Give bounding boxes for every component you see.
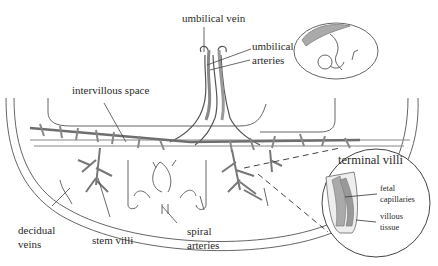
placenta-diagram [0,0,438,266]
label-stem-villi: stem villi [92,234,133,246]
label-fetal-capillaries-line2: capillaries [380,194,415,204]
label-spiral-arteries-line1: spiral [187,225,211,237]
chorionic-vessels [30,124,360,152]
label-umbilical-arteries-line2: arteries [252,54,284,66]
label-villous-tissue-line2: tissue [380,222,399,232]
label-fetal-capillaries-line1: fetal [380,183,395,193]
label-decidual-veins-line1: decidual [18,224,55,236]
label-villous-tissue-line1: villous [380,211,403,221]
label-intervillous-space: intervillous space [72,84,149,96]
fetus-in-uterus-icon [294,23,378,79]
label-umbilical-vein: umbilical vein [182,12,245,24]
label-terminal-villi: terminal villi [338,154,403,166]
label-umbilical-arteries-line1: umbilical [252,40,294,52]
spiral-arteries [60,160,268,214]
label-decidual-veins-line2: veins [18,238,41,250]
stem-villi [78,148,282,200]
label-spiral-arteries-line2: arteries [187,239,219,251]
